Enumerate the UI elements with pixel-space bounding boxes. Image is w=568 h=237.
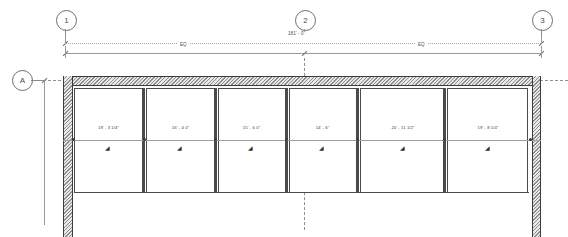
bay-dim-point-4 — [356, 138, 359, 141]
bay-dim-point-3 — [285, 138, 288, 141]
drawing-canvas[interactable]: 1 2 3 181' - 0" EQ EQ A — [0, 0, 568, 237]
grid-A-witness — [44, 80, 45, 225]
grid-bubble-3[interactable]: 3 — [532, 10, 553, 31]
bay-2-dimension-label: 16' - 4 0" — [157, 125, 204, 130]
bay-6-symbol: ◢ — [475, 145, 499, 151]
grid-bubble-1[interactable]: 1 — [56, 10, 77, 31]
bay-3-symbol: ◢ — [238, 145, 262, 151]
bay-dim-point-5 — [443, 138, 446, 141]
grid-bubble-A-label: A — [20, 77, 25, 85]
bay-1-symbol: ◢ — [95, 145, 119, 151]
wall-top-outer-edge — [63, 76, 541, 77]
bay-5-symbol: ◢ — [390, 145, 414, 151]
grid-bubble-1-label: 1 — [64, 17, 68, 25]
overall-dim-witness-left — [65, 36, 66, 44]
bay-1-dimension-label: 19' - 3 1/4" — [85, 125, 132, 130]
bay-4-dimension-label: 14' - 6" — [299, 125, 346, 130]
wall-top-inner-edge — [63, 85, 541, 86]
grid-bubble-2[interactable]: 2 — [295, 10, 316, 31]
wall-top — [63, 76, 541, 85]
wall-left-inner-edge — [72, 76, 73, 237]
bay-6-dimension-label: 19' - 8 1/4" — [462, 125, 514, 130]
grid-bubble-2-label: 2 — [303, 17, 307, 25]
grid-bubble-A-stem — [31, 80, 43, 81]
overall-dimension-label: 181' - 0" — [286, 31, 307, 36]
eq-witness-left — [65, 46, 66, 58]
wall-left-outer-edge — [63, 76, 64, 237]
bay-dimension-line — [63, 140, 541, 141]
grid-bubble-A[interactable]: A — [12, 70, 33, 91]
overall-dimension-line — [65, 43, 541, 44]
overall-dim-witness-right — [541, 36, 542, 44]
bay-dim-point-1 — [143, 138, 146, 141]
eq-label-right: EQ — [416, 42, 427, 47]
bay-2-symbol: ◢ — [167, 145, 191, 151]
grid-bubble-3-label: 3 — [540, 17, 544, 25]
bay-5-dimension-label: 20' - 11 1/2" — [377, 125, 429, 130]
bay-dim-point-2 — [214, 138, 217, 141]
bay-3-dimension-label: 15' - 6 0" — [228, 125, 275, 130]
bay-4-symbol: ◢ — [309, 145, 333, 151]
wall-right-outer-edge — [540, 76, 541, 237]
bay-block-bottom-edge — [74, 192, 529, 193]
eq-label-left: EQ — [178, 42, 189, 47]
wall-left — [63, 76, 72, 237]
wall-right-inner-edge — [532, 76, 533, 237]
bay-dim-point-0 — [72, 138, 75, 141]
bay-dim-point-6 — [529, 138, 532, 141]
eq-witness-right — [541, 46, 542, 58]
